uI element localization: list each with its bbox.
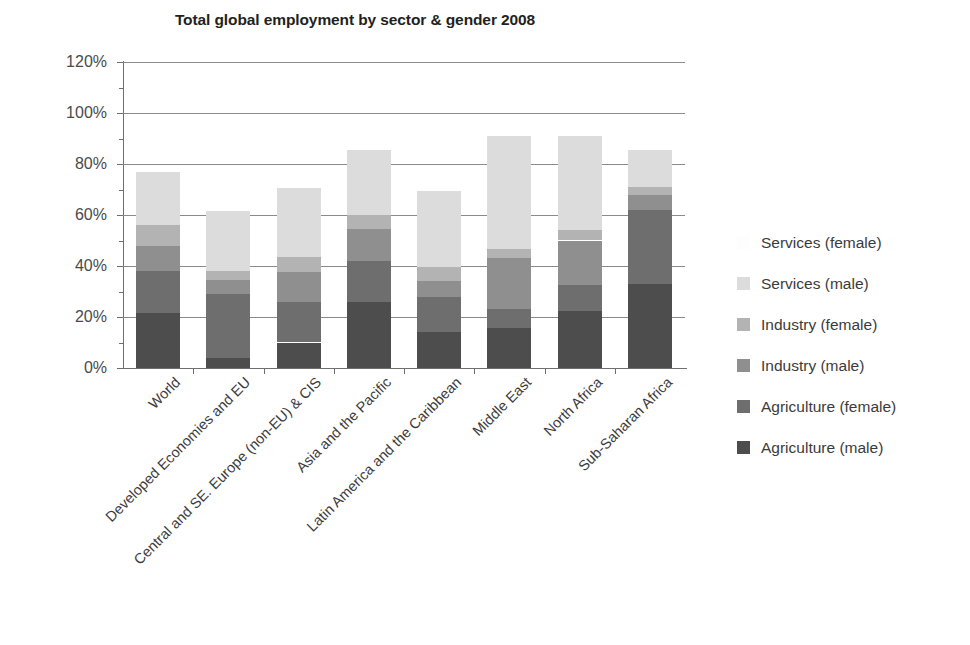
x-axis-tick (474, 368, 475, 374)
x-axis-label: Developed Economies and EU (103, 374, 254, 525)
y-axis-tick-label: 20% (75, 308, 107, 326)
legend-swatch-icon (737, 277, 750, 290)
y-axis-tick-label: 80% (75, 155, 107, 173)
bar-segment[interactable] (628, 284, 672, 368)
y-axis-tick: 80% (117, 164, 123, 165)
y-axis-minor-tick (119, 139, 123, 140)
bar-segment[interactable] (136, 246, 180, 272)
bar-segment[interactable] (558, 285, 602, 311)
bar-segment[interactable] (628, 210, 672, 284)
x-axis-label-text: World (146, 374, 184, 412)
x-axis-label-text: Latin America and the Caribbean (304, 374, 465, 535)
x-axis-label: Middle East (470, 374, 535, 439)
y-axis-tick: 20% (117, 317, 123, 318)
x-axis-label-text: Developed Economies and EU (103, 374, 254, 525)
bar-stack[interactable] (206, 62, 250, 368)
bar-segment[interactable] (417, 332, 461, 368)
bar-segment[interactable] (347, 150, 391, 215)
legend: Services (female)Services (male)Industry… (737, 222, 967, 468)
bar-stack[interactable] (628, 62, 672, 368)
y-axis-tick-label: 0% (84, 359, 107, 377)
bar-segment[interactable] (136, 225, 180, 245)
bar-segment[interactable] (347, 229, 391, 261)
x-axis-tick (193, 368, 194, 374)
bar-segment[interactable] (347, 302, 391, 368)
legend-item-label: Services (female) (761, 234, 882, 252)
bar-segment[interactable] (628, 195, 672, 210)
y-axis-minor-tick (119, 190, 123, 191)
bar-segment[interactable] (136, 172, 180, 226)
bar-segment[interactable] (417, 281, 461, 296)
x-axis-label: Latin America and the Caribbean (304, 374, 465, 535)
chart-container: Total global employment by sector & gend… (0, 0, 970, 645)
bar-stack[interactable] (136, 62, 180, 368)
legend-swatch-icon (737, 441, 750, 454)
bar-segment[interactable] (417, 267, 461, 281)
bar-segment[interactable] (277, 302, 321, 343)
bar-segment[interactable] (558, 311, 602, 368)
legend-item[interactable]: Agriculture (female) (737, 386, 967, 427)
legend-item[interactable]: Industry (female) (737, 304, 967, 345)
bar-stack[interactable] (277, 62, 321, 368)
bar-segment[interactable] (558, 230, 602, 240)
x-axis-tick (264, 368, 265, 374)
plot-area: 0%20%40%60%80%100%120% (123, 62, 685, 368)
bar-segment[interactable] (206, 280, 250, 294)
bar-segment[interactable] (347, 215, 391, 229)
bar-segment[interactable] (206, 358, 250, 368)
bar-segment[interactable] (277, 272, 321, 301)
x-axis-tick (615, 368, 616, 374)
bar-segment[interactable] (136, 313, 180, 368)
y-axis-tick-label: 40% (75, 257, 107, 275)
y-axis-minor-tick (119, 88, 123, 89)
y-axis-tick-label: 120% (66, 53, 107, 71)
bar-segment[interactable] (136, 271, 180, 313)
x-axis-label: North Africa (540, 374, 605, 439)
bar-segment[interactable] (206, 211, 250, 271)
bar-segment[interactable] (487, 258, 531, 309)
bar-segment[interactable] (487, 309, 531, 328)
legend-swatch-icon (737, 359, 750, 372)
legend-item[interactable]: Services (male) (737, 263, 967, 304)
y-axis-tick: 100% (117, 113, 123, 114)
bar-segment[interactable] (277, 188, 321, 257)
legend-item-label: Industry (female) (761, 316, 877, 334)
bar-segment[interactable] (206, 294, 250, 358)
x-axis-label-text: North Africa (540, 374, 605, 439)
bar-stack[interactable] (558, 62, 602, 368)
bar-segment[interactable] (487, 249, 531, 258)
x-axis-tick (404, 368, 405, 374)
bar-segment[interactable] (558, 136, 602, 230)
y-axis-minor-tick (119, 343, 123, 344)
bar-segment[interactable] (417, 191, 461, 268)
bar-segment[interactable] (628, 187, 672, 195)
chart-title: Total global employment by sector & gend… (110, 11, 600, 29)
legend-item[interactable]: Services (female) (737, 222, 967, 263)
legend-swatch-icon (737, 400, 750, 413)
bar-segment[interactable] (417, 297, 461, 333)
y-axis-tick-label: 100% (66, 104, 107, 122)
x-axis-tick (334, 368, 335, 374)
bar-segment[interactable] (277, 343, 321, 369)
bar-segment[interactable] (206, 271, 250, 280)
bar-segment[interactable] (628, 150, 672, 187)
bar-stack[interactable] (417, 62, 461, 368)
bar-stack[interactable] (347, 62, 391, 368)
y-axis-tick: 60% (117, 215, 123, 216)
legend-item-label: Services (male) (761, 275, 869, 293)
bar-segment[interactable] (558, 241, 602, 286)
legend-item[interactable]: Industry (male) (737, 345, 967, 386)
y-axis-tick: 120% (117, 62, 123, 63)
legend-swatch-icon (737, 318, 750, 331)
bar-segment[interactable] (277, 257, 321, 272)
bar-segment[interactable] (487, 328, 531, 368)
y-axis-tick: 0% (117, 368, 123, 369)
bar-segment[interactable] (487, 136, 531, 249)
bar-stack[interactable] (487, 62, 531, 368)
y-axis-tick-label: 60% (75, 206, 107, 224)
legend-item-label: Agriculture (male) (761, 439, 883, 457)
bar-segment[interactable] (347, 261, 391, 302)
legend-item[interactable]: Agriculture (male) (737, 427, 967, 468)
y-axis-minor-tick (119, 292, 123, 293)
legend-swatch-icon (737, 236, 750, 249)
